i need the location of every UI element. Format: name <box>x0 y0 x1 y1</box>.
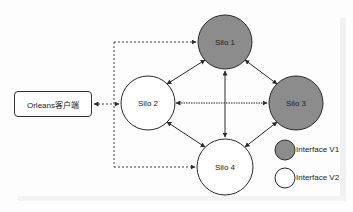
orleans-client-box: Orleans客户端 <box>14 91 92 117</box>
silo2-label: Silo 2 <box>138 99 158 108</box>
legend-v2-swatch <box>275 168 295 188</box>
legend-v1-swatch <box>275 140 295 160</box>
diagram-canvas: Orleans客户端 Silo 1 Silo 2 Silo 3 Silo 4 I… <box>0 0 353 212</box>
silo2-silo4-edge <box>167 122 205 147</box>
orleans-client-label: Orleans客户端 <box>27 99 79 110</box>
silo1-silo2-edge <box>167 60 205 84</box>
silo1-label: Silo 1 <box>215 38 235 47</box>
legend-v1-label: Interface V1 <box>296 145 339 154</box>
silo4-label: Silo 4 <box>215 163 235 172</box>
legend-v2-label: Interface V2 <box>296 173 339 182</box>
silo-mesh-edges <box>167 60 277 147</box>
silo3-label: Silo 3 <box>286 99 306 108</box>
silo1-silo3-edge <box>245 60 277 84</box>
silo3-silo4-edge <box>245 122 277 147</box>
